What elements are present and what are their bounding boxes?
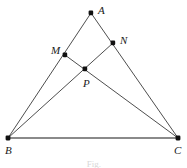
vertex-label-m: M — [51, 45, 60, 56]
segment-side-AC — [91, 13, 178, 138]
geometry-figure: A M N P B C Fig. — [0, 0, 187, 168]
geometry-canvas — [0, 0, 187, 168]
segment-cevian-BN — [8, 43, 113, 138]
point-P — [83, 67, 88, 72]
vertex-label-b: B — [5, 145, 12, 156]
point-N — [111, 41, 116, 46]
segment-cevian-CM — [65, 55, 178, 138]
point-C — [176, 136, 181, 141]
segment-side-AB — [8, 13, 91, 138]
vertex-label-c: C — [174, 145, 181, 156]
point-A — [89, 11, 94, 16]
vertex-label-n: N — [120, 35, 127, 46]
point-M — [63, 53, 68, 58]
point-B — [6, 136, 11, 141]
vertex-label-a: A — [98, 5, 105, 16]
figure-caption: Fig. — [60, 160, 128, 168]
vertex-label-p: P — [83, 78, 90, 89]
